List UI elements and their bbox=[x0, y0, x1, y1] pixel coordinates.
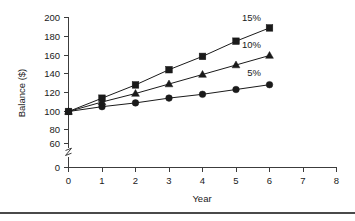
x-axis-title: Year bbox=[192, 193, 211, 204]
y-tick-label: 0 bbox=[55, 162, 60, 173]
data-point-marker bbox=[132, 100, 139, 107]
data-point-marker bbox=[132, 82, 139, 89]
series-label-5-percent: 5% bbox=[247, 67, 261, 78]
data-point-marker bbox=[166, 95, 173, 102]
x-tick-label: 5 bbox=[233, 175, 238, 186]
data-point-marker bbox=[266, 81, 273, 88]
data-point-marker bbox=[266, 25, 273, 32]
data-point-marker bbox=[266, 52, 274, 59]
series-10-percent bbox=[65, 52, 274, 115]
y-tick-label: 60 bbox=[49, 138, 60, 149]
y-tick-label: 140 bbox=[44, 68, 60, 79]
x-tick-label: 7 bbox=[300, 175, 305, 186]
y-tick-label: 160 bbox=[44, 50, 60, 61]
x-tick-label: 0 bbox=[66, 175, 71, 186]
x-tick-label: 8 bbox=[334, 175, 339, 186]
y-tick-label: 200 bbox=[44, 12, 60, 23]
y-tick-labels: 200 180 160 140 120 100 80 60 0 bbox=[44, 12, 60, 173]
y-tick-label: 100 bbox=[44, 106, 60, 117]
y-tick-label: 80 bbox=[49, 124, 60, 135]
y-tick-label: 120 bbox=[44, 87, 60, 98]
line-chart: 200 180 160 140 120 100 80 60 0 0 1 bbox=[0, 0, 355, 221]
data-point-marker bbox=[199, 91, 206, 98]
chart-figure: 200 180 160 140 120 100 80 60 0 0 1 bbox=[0, 0, 355, 221]
y-axis-title: Balance ($) bbox=[16, 69, 27, 118]
x-tick-label: 3 bbox=[166, 175, 171, 186]
data-point-marker bbox=[233, 86, 240, 93]
x-tick-label: 2 bbox=[133, 175, 138, 186]
series-label-15-percent: 15% bbox=[242, 12, 262, 23]
data-point-marker bbox=[199, 53, 206, 60]
x-tick-label: 1 bbox=[99, 175, 104, 186]
x-tick-label: 6 bbox=[267, 175, 272, 186]
x-tick-label: 4 bbox=[200, 175, 205, 186]
footer-divider bbox=[0, 212, 355, 214]
x-axis bbox=[69, 168, 338, 173]
y-tick-label: 180 bbox=[44, 31, 60, 42]
y-axis bbox=[64, 17, 72, 168]
x-tick-labels: 0 1 2 3 4 5 6 7 8 bbox=[66, 175, 339, 186]
series-label-10-percent: 10% bbox=[242, 39, 262, 50]
data-point-marker bbox=[99, 95, 106, 102]
data-point-marker bbox=[233, 38, 240, 45]
data-point-marker bbox=[65, 108, 72, 115]
data-point-marker bbox=[166, 66, 173, 73]
